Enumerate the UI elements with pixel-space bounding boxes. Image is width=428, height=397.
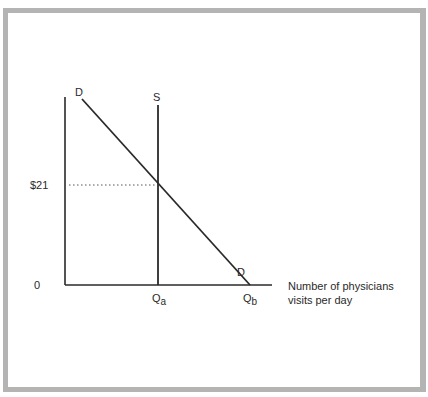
origin-label: 0 xyxy=(34,279,40,291)
supply-demand-chart: D S D $21 0 Qa Qb Number of physicians v… xyxy=(0,0,428,397)
price-label: $21 xyxy=(30,179,48,191)
demand-bottom-label: D xyxy=(237,266,245,278)
x-axis-label-line1: Number of physicians xyxy=(288,280,394,292)
qb-label: Qb xyxy=(243,292,258,307)
demand-top-label: D xyxy=(75,86,83,98)
qa-label: Qa xyxy=(152,292,167,307)
supply-top-label: S xyxy=(153,91,160,103)
x-axis-label-line2: visits per day xyxy=(288,294,353,306)
demand-line xyxy=(82,99,250,285)
